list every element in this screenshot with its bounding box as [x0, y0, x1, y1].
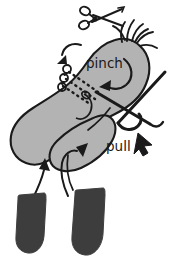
pinch-label: pinch	[86, 55, 123, 71]
mitten-grafting-diagram: pinch pull	[0, 0, 176, 259]
pull-label: pull	[106, 138, 131, 154]
finger-shape-left	[16, 193, 46, 253]
finger-shape-right	[72, 188, 105, 255]
diagram-canvas: pinch pull	[0, 0, 176, 259]
